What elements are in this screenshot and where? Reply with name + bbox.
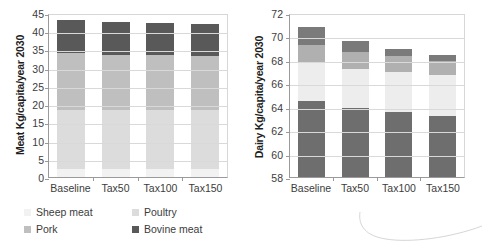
gridline <box>290 38 464 39</box>
stacked-bar[interactable] <box>385 49 412 177</box>
y-tick-mark <box>45 106 49 107</box>
y-tick-label: 20 <box>32 100 44 110</box>
legend-swatch-icon <box>132 209 139 216</box>
gridline <box>49 70 227 71</box>
y-tick-mark <box>45 143 49 144</box>
stacked-bar[interactable] <box>191 24 219 177</box>
y-tick-label: 0 <box>38 173 44 183</box>
bar-segment <box>429 61 456 75</box>
y-tick-label: 5 <box>38 155 44 165</box>
bar-slot <box>183 15 228 177</box>
dairy-y-axis-labels: 5860626466687072 <box>251 14 283 178</box>
gridline <box>49 51 227 52</box>
gridline <box>49 106 227 107</box>
y-tick-label: 40 <box>32 27 44 37</box>
y-tick-mark <box>45 33 49 34</box>
y-tick-label: 35 <box>32 45 44 55</box>
dairy-x-axis-labels: BaselineTax50Tax100Tax150 <box>289 182 465 194</box>
bar-segment <box>385 112 412 177</box>
y-tick-mark <box>45 51 49 52</box>
bar-segment <box>191 56 219 111</box>
stacked-bar[interactable] <box>146 23 174 177</box>
bar-segment <box>429 75 456 116</box>
bar-segment <box>146 23 174 55</box>
y-tick-mark <box>286 85 290 86</box>
meat-y-axis-labels: 051015202530354045 <box>12 14 44 178</box>
legend-item[interactable]: Pork <box>24 223 132 235</box>
stacked-bar-figure: Meat Kg/capita/year 2030 051015202530354… <box>0 0 482 251</box>
bar-segment <box>102 22 130 55</box>
dairy-chart-panel: Dairy Kg/capita/year 2030 58606264666870… <box>241 0 482 251</box>
stacked-bar[interactable] <box>429 55 456 177</box>
gridline <box>290 109 464 110</box>
x-tick-label: Baseline <box>289 182 333 194</box>
legend-label: Poultry <box>144 206 177 218</box>
y-tick-label: 10 <box>32 137 44 147</box>
meat-chart-panel: Meat Kg/capita/year 2030 051015202530354… <box>0 0 241 251</box>
y-tick-mark <box>286 179 290 180</box>
dairy-plot-area <box>289 14 465 178</box>
legend-label: Sheep meat <box>36 206 93 218</box>
gridline <box>49 161 227 162</box>
stacked-bar[interactable] <box>298 27 325 177</box>
legend-swatch-icon <box>24 226 31 233</box>
y-tick-label: 15 <box>32 118 44 128</box>
x-tick-label: Baseline <box>48 182 93 194</box>
bar-segment <box>342 41 369 52</box>
meat-bars <box>49 15 227 177</box>
x-tick-label: Tax150 <box>421 182 465 194</box>
legend-item[interactable]: Bovine meat <box>132 223 240 235</box>
y-tick-label: 58 <box>271 173 283 183</box>
y-tick-label: 30 <box>32 64 44 74</box>
y-tick-label: 45 <box>32 9 44 19</box>
bar-segment <box>385 56 412 72</box>
x-tick-label: Tax50 <box>333 182 377 194</box>
y-tick-mark <box>45 179 49 180</box>
meat-x-axis-labels: BaselineTax50Tax100Tax150 <box>48 182 228 194</box>
y-tick-mark <box>45 124 49 125</box>
bar-segment <box>102 55 130 110</box>
legend-label: Pork <box>36 223 58 235</box>
y-tick-label: 64 <box>271 103 283 113</box>
x-tick-label: Tax150 <box>183 182 228 194</box>
y-tick-label: 62 <box>271 126 283 136</box>
stacked-bar[interactable] <box>102 22 130 177</box>
meat-legend: Sheep meatPoultryPorkBovine meat <box>24 206 234 235</box>
bar-segment <box>146 169 174 177</box>
bar-slot <box>94 15 139 177</box>
bar-segment <box>57 169 85 177</box>
bar-segment <box>57 20 85 53</box>
y-tick-mark <box>45 88 49 89</box>
legend-swatch-icon <box>24 209 31 216</box>
bar-segment <box>146 55 174 110</box>
bar-slot <box>138 15 183 177</box>
legend-item[interactable]: Poultry <box>132 206 240 218</box>
y-tick-label: 72 <box>271 9 283 19</box>
y-tick-mark <box>286 38 290 39</box>
bar-segment <box>298 63 325 101</box>
y-tick-mark <box>286 109 290 110</box>
bar-segment <box>342 108 369 177</box>
y-tick-mark <box>286 15 290 16</box>
gridline <box>290 85 464 86</box>
x-tick-label: Tax50 <box>93 182 138 194</box>
y-tick-label: 66 <box>271 79 283 89</box>
y-tick-label: 25 <box>32 82 44 92</box>
y-tick-mark <box>286 62 290 63</box>
bar-segment <box>342 52 369 69</box>
gridline <box>290 62 464 63</box>
y-tick-mark <box>286 156 290 157</box>
x-tick-label: Tax100 <box>377 182 421 194</box>
bar-segment <box>298 27 325 45</box>
legend-item[interactable]: Sheep meat <box>24 206 132 218</box>
gridline <box>290 156 464 157</box>
bar-segment <box>342 69 369 108</box>
bar-segment <box>429 116 456 177</box>
y-tick-mark <box>45 15 49 16</box>
stacked-bar[interactable] <box>57 20 85 177</box>
bar-slot <box>49 15 94 177</box>
y-tick-mark <box>45 161 49 162</box>
bar-segment <box>102 169 130 177</box>
y-tick-label: 68 <box>271 56 283 66</box>
y-tick-label: 70 <box>271 32 283 42</box>
